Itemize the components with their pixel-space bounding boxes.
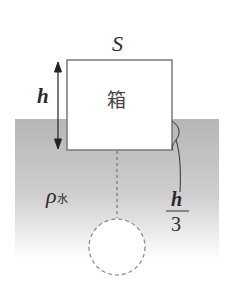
fraction-numerator: h (171, 189, 182, 209)
height-label: h (37, 86, 49, 107)
density-symbol: ρ (46, 183, 57, 208)
area-label: S (112, 33, 123, 55)
density-subscript: 水 (57, 193, 68, 206)
buoyancy-diagram: S 箱 h h 3 ρ水 (0, 0, 237, 305)
density-label: ρ水 (46, 185, 68, 207)
fraction-denominator: 3 (171, 214, 181, 234)
box-label: 箱 (107, 91, 126, 110)
dashed-circle (89, 219, 145, 275)
